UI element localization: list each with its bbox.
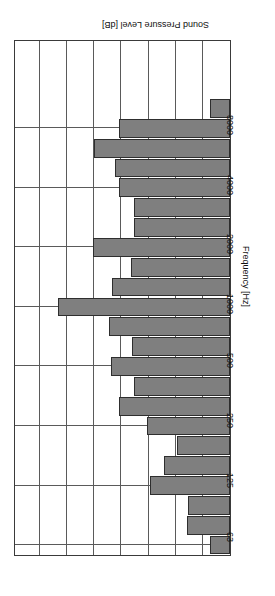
frequency-axis-title: Frequency [Hz]: [241, 246, 251, 307]
bar: [119, 119, 230, 138]
bar: [177, 436, 230, 455]
bar: [109, 317, 230, 336]
frequency-tick-label: 4000: [225, 175, 235, 195]
frequency-tick-label: 2000: [225, 234, 235, 254]
bar: [119, 397, 230, 416]
frequency-tick-label: 250: [225, 413, 235, 428]
bar: [111, 357, 230, 376]
bar: [134, 377, 230, 396]
bar: [187, 516, 230, 535]
plot-area: [14, 40, 231, 556]
bar: [58, 298, 230, 317]
bar: [112, 278, 230, 297]
bar: [147, 417, 230, 436]
frequency-tick-label: 8000: [225, 115, 235, 135]
bar: [115, 159, 230, 178]
bar-series: [15, 41, 230, 555]
bar: [150, 476, 230, 495]
bar: [164, 456, 230, 475]
bar: [188, 496, 230, 515]
frequency-tick-label: 1000: [225, 294, 235, 314]
bar: [132, 337, 230, 356]
frequency-tick-label: 500: [225, 353, 235, 368]
frequency-tick-label: 63: [225, 532, 235, 542]
bar: [134, 198, 230, 217]
sound-pressure-level-chart: 631252505001000200040008000 Frequency [H…: [0, 0, 275, 596]
level-axis-title: Sound Pressure Level [dB]: [102, 20, 209, 30]
bar: [134, 218, 230, 237]
bar: [93, 238, 230, 257]
frequency-tick-label: 125: [225, 473, 235, 488]
bar: [131, 258, 230, 277]
bar: [119, 178, 230, 197]
bar: [94, 139, 230, 158]
